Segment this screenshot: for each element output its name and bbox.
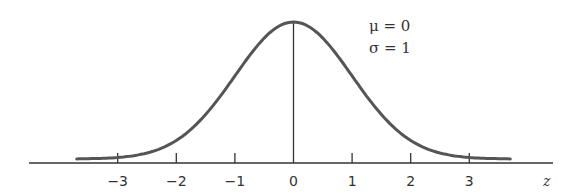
x-axis-tick-labels: −3−2−10123 <box>107 173 473 189</box>
x-tick-label: 1 <box>348 173 357 189</box>
x-tick-label: 3 <box>465 173 474 189</box>
sigma-annotation: σ = 1 <box>369 39 411 57</box>
x-tick-label: −2 <box>166 173 187 189</box>
x-tick-label: −1 <box>225 173 246 189</box>
x-axis-label: z <box>542 173 551 189</box>
normal-distribution-chart: −3−2−10123 μ = 0 σ = 1 z <box>0 0 562 196</box>
x-tick-label: −3 <box>107 173 128 189</box>
x-tick-label: 2 <box>406 173 415 189</box>
mu-annotation: μ = 0 <box>369 17 410 35</box>
x-tick-label: 0 <box>289 173 298 189</box>
